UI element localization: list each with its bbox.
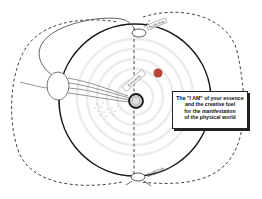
emotion-strands [20,78,130,102]
south-pole-node [131,173,145,181]
red-dot [154,69,163,78]
north-pole-node [132,29,146,37]
callout-line-4: of the physical world [173,114,247,120]
center-core-inner [133,98,139,104]
north-pole-label: North Pole [147,18,167,30]
essence-callout-box: The "I AM" of your essence and the creat… [172,91,248,129]
left-emotion-node [47,72,69,100]
wavy-connection-top [39,18,135,80]
